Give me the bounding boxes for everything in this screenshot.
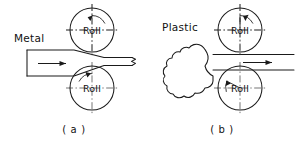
material-label-metal: Metal xyxy=(14,32,45,44)
rotation-arc xyxy=(92,16,105,24)
panel-a: Roll Roll Metal ( a ) xyxy=(14,4,136,135)
roll-label: Roll xyxy=(231,25,249,36)
panel-a-upper-roll: Roll xyxy=(66,4,118,56)
roll-label: Roll xyxy=(231,83,249,94)
panel-b: Roll Roll Plastic ( b ) xyxy=(162,4,294,135)
material-label-plastic: Plastic xyxy=(162,21,198,33)
plastic-workpiece-blob xyxy=(163,44,213,98)
rotation-arc xyxy=(79,74,92,82)
roll-label: Roll xyxy=(83,25,101,36)
panel-caption-a: ( a ) xyxy=(62,124,85,135)
rolling-diagram: Roll Roll Metal ( a ) xyxy=(0,0,297,143)
roll-label: Roll xyxy=(83,83,101,94)
panel-b-upper-roll: Roll xyxy=(214,4,266,56)
panel-caption-b: ( b ) xyxy=(210,124,234,135)
figure-root: Roll Roll Metal ( a ) xyxy=(0,0,297,143)
plastic-exit-arrow xyxy=(243,60,272,65)
